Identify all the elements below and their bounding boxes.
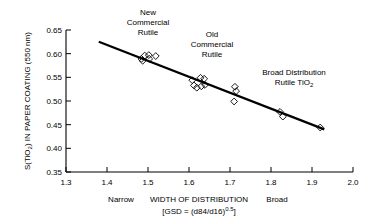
annotation-line: Broad Distribution: [262, 68, 326, 77]
x-axis-title: WIDTH OF DISTRIBUTION: [150, 195, 248, 204]
x-tick-label: 2.0: [347, 178, 359, 187]
annotation-line: Commercial: [127, 18, 170, 27]
annotation-line: New: [140, 8, 156, 17]
scatter-chart-figure: S(TiO2) IN PAPER COATING (550 nm) 0.35 0…: [0, 0, 378, 224]
x-axis-subtitle: [GSD = (d84/d16)0.5]: [162, 206, 236, 216]
y-axis-tick-labels: 0.35 0.40 0.45 0.50 0.55 0.60 0.65: [46, 26, 62, 177]
gsd-suffix: ]: [234, 207, 236, 216]
annotation-line: Rutile: [202, 50, 223, 59]
y-tick-label: 0.65: [46, 26, 62, 35]
x-axis-tick-labels: 1.3 1.4 1.5 1.6 1.7 1.8 1.9 2.0: [60, 178, 359, 187]
y-tick-label: 0.45: [46, 121, 62, 130]
annotation-old-commercial-rutile: Old Commercial Rutile: [191, 30, 234, 59]
y-tick-label: 0.40: [46, 144, 62, 153]
x-tick-label: 1.8: [265, 178, 277, 187]
y-axis-title: S(TiO2) IN PAPER COATING (550 nm): [23, 32, 33, 170]
x-tick-label: 1.5: [142, 178, 154, 187]
x-tick-label: 1.3: [60, 178, 72, 187]
annotation-line: Commercial: [191, 40, 234, 49]
data-point-marker: [231, 98, 238, 105]
annotation-line: Rutile: [138, 28, 159, 37]
annotation-line: Rutile TiO2: [275, 78, 314, 88]
x-axis-broad-label: Broad: [266, 195, 287, 204]
y-tick-label: 0.35: [46, 168, 62, 177]
x-tick-label: 1.7: [224, 178, 236, 187]
x-tick-label: 1.6: [183, 178, 195, 187]
x-axis-ticks: [66, 167, 353, 172]
annotation-rutile-tio2: Rutile TiO: [275, 78, 310, 87]
y-axis-title-rest: ) IN PAPER COATING (550 nm): [23, 32, 32, 146]
y-tick-label: 0.55: [46, 73, 62, 82]
x-axis-narrow-label: Narrow: [108, 195, 134, 204]
x-tick-label: 1.9: [306, 178, 318, 187]
gsd-prefix: [GSD = (d84/d16): [162, 207, 225, 216]
data-point-marker: [152, 53, 159, 60]
svg-text:S(TiO2) IN PAPER COATING (550: S(TiO2) IN PAPER COATING (550 nm): [23, 32, 33, 170]
annotation-subscript: 2: [310, 82, 314, 88]
annotation-new-commercial-rutile: New Commercial Rutile: [127, 8, 170, 37]
y-axis-ticks: [66, 30, 71, 172]
annotation-line: Old: [206, 30, 218, 39]
chart-canvas: S(TiO2) IN PAPER COATING (550 nm) 0.35 0…: [0, 0, 378, 224]
annotation-broad-distribution-rutile: Broad Distribution Rutile TiO2: [262, 68, 326, 88]
x-tick-label: 1.4: [101, 178, 113, 187]
y-tick-label: 0.50: [46, 97, 62, 106]
y-axis-title-main: S(TiO: [23, 149, 32, 170]
y-tick-label: 0.60: [46, 50, 62, 59]
